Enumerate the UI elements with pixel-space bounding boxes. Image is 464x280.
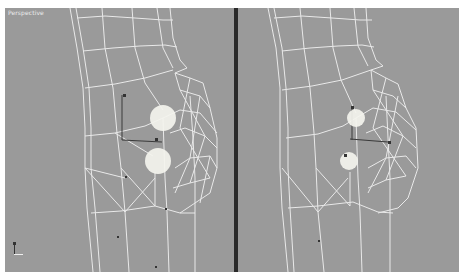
viewport-perspective-left[interactable]: Perspective (5, 8, 234, 272)
viewport-right[interactable] (238, 8, 459, 272)
wireframe-mesh-left (5, 8, 234, 272)
lower-sphere-gizmo[interactable] (340, 152, 358, 170)
upper-sphere-gizmo[interactable] (347, 109, 365, 127)
wireframe-mesh-right (238, 8, 459, 272)
axis-tripod-icon (11, 242, 25, 258)
lower-sphere-gizmo[interactable] (145, 148, 171, 174)
upper-sphere-gizmo[interactable] (150, 105, 176, 131)
